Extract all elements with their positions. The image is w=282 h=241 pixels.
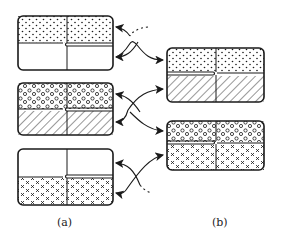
arrow-a2-to-b1-bottom: [128, 89, 163, 110]
cell-a2: [18, 83, 113, 135]
cell-a1: [18, 16, 113, 70]
arrow-a3-top: [116, 163, 140, 185]
cell-b2: [167, 121, 264, 170]
arrow-a1-top-dashed: [130, 27, 148, 36]
arrow-a2-bottom: [116, 110, 128, 122]
arrow-a2-to-b2-top: [130, 112, 163, 131]
panel-a-label: (a): [57, 216, 72, 229]
cell-a3: [18, 149, 113, 205]
arrow-a1-top: [116, 27, 130, 36]
arrow-a1-bottom-to-b1-top: [116, 42, 163, 60]
arrow-a3-dashed: [140, 185, 152, 193]
cell-b1: [167, 48, 264, 102]
arrow-a3-bottom: [116, 190, 126, 193]
arrow-a3-to-b2-bottom: [126, 155, 163, 190]
panel-b-label: (b): [212, 216, 228, 229]
pairing-arrows: [116, 27, 163, 193]
cell-pairing-diagram: [0, 0, 282, 241]
